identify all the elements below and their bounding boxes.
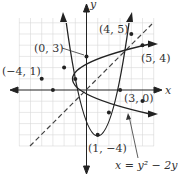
point-label-neg4-1: (−4, 1) [2,65,41,78]
graph: x y (0, 3) (4, 5) (−4, 1) (5, 4) (3, 0) … [0,0,178,180]
point-label-0-3: (0, 3) [34,42,64,55]
point-label-4-5: (4, 5) [99,23,129,36]
point-label-3-0: (3, 0) [124,92,154,105]
axes [10,4,162,174]
point-label-1-neg4: (1, −4) [88,142,127,155]
y-axis-label: y [89,0,97,11]
equation-label: x = y² − 2y − 3 [115,159,178,172]
x-axis-label: x [165,84,172,97]
point-label-5-4: (5, 4) [141,52,171,65]
